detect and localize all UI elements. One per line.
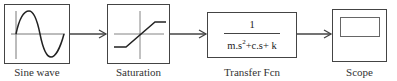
saturation-icon — [108, 5, 169, 63]
saturation-block[interactable] — [107, 4, 170, 64]
denominator-term-rest: +c.s+ k — [246, 40, 277, 51]
saturation-label: Saturation — [107, 66, 170, 78]
numerator: 1 — [249, 19, 254, 33]
transfer-function-expression: 1 m.s2+c.s+ k — [208, 13, 296, 57]
sine-wave-icon — [5, 5, 69, 63]
denominator: m.s2+c.s+ k — [227, 34, 276, 52]
transfer-fcn-label: Transfer Fcn — [207, 66, 297, 78]
transfer-fcn-block[interactable]: 1 m.s2+c.s+ k — [207, 12, 297, 58]
sine-wave-label: Sine wave — [4, 66, 70, 78]
scope-screen-icon — [340, 17, 380, 37]
sine-wave-block[interactable] — [4, 4, 70, 64]
scope-label: Scope — [332, 66, 387, 78]
scope-block[interactable] — [332, 9, 387, 62]
denominator-term-ms: m.s — [227, 40, 242, 51]
